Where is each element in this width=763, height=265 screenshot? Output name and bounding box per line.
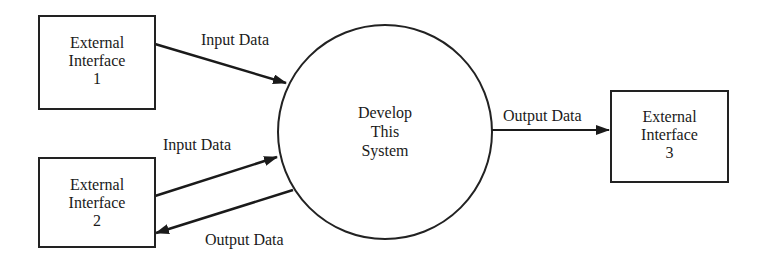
flow-label-ext2-output: Output Data <box>205 231 284 249</box>
ext2-line-3: 2 <box>69 212 126 230</box>
ext2-line-1: External <box>69 176 126 194</box>
system-line-2: This <box>325 122 445 141</box>
ext2-line-2: Interface <box>69 194 126 212</box>
flow-arrow-ext1-to-system <box>155 44 286 83</box>
flow-label-ext2-input: Input Data <box>163 136 231 154</box>
flow-label-ext1-input: Input Data <box>201 31 269 49</box>
external-interface-3: External Interface 3 <box>610 90 729 183</box>
system-line-1: Develop <box>325 103 445 122</box>
flow-arrow-ext2-to-system <box>155 157 277 196</box>
external-interface-1: External Interface 1 <box>38 15 156 110</box>
system-process-label: Develop This System <box>325 103 445 160</box>
ext3-line-1: External <box>641 108 698 126</box>
ext1-line-1: External <box>69 34 126 52</box>
system-line-3: System <box>325 141 445 160</box>
flow-arrow-system-to-ext2 <box>156 190 293 233</box>
ext3-line-2: Interface <box>641 126 698 144</box>
ext3-line-3: 3 <box>641 144 698 162</box>
flow-label-ext3-output: Output Data <box>503 107 582 125</box>
ext1-line-2: Interface <box>69 52 126 70</box>
external-interface-2: External Interface 2 <box>38 157 156 248</box>
ext1-line-3: 1 <box>69 70 126 88</box>
